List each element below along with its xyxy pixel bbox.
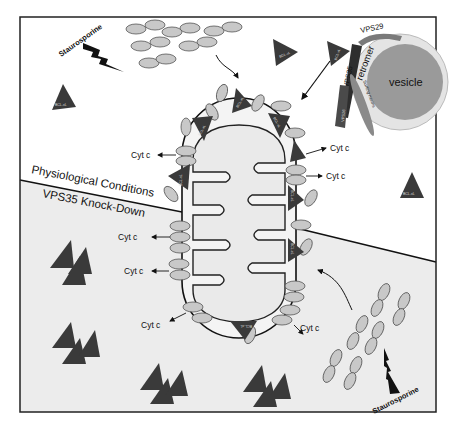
retromer-to-mito-arrow	[302, 61, 330, 99]
cyt-c-label: Cyt c	[326, 171, 346, 181]
svg-text:BCL-xL: BCL-xL	[179, 174, 183, 186]
vps35-bclxl-diagram: Physiological Conditions VPS35 Knock-Dow…	[0, 0, 455, 442]
svg-text:BCL-xL: BCL-xL	[240, 324, 252, 328]
cyt-c-label: Cyt c	[131, 150, 151, 160]
svg-text:BCL-xL: BCL-xL	[290, 190, 294, 202]
retromer-vesicle-complex: vesicle VPS29 VPS35 retromer VPS26 Sorti…	[302, 21, 448, 137]
svg-text:BCL-xL: BCL-xL	[290, 243, 294, 255]
cyt-c-label: Cyt c	[141, 320, 161, 330]
cytosolic-bax-cluster	[126, 20, 242, 68]
lightning-bolt-icon	[83, 43, 124, 72]
cyt-c-label: Cyt c	[330, 143, 350, 153]
svg-text:BCL-xL: BCL-xL	[55, 103, 67, 107]
cyt-c-label: Cyt c	[118, 232, 138, 242]
vesicle-label: vesicle	[389, 76, 423, 88]
cyt-c-label: Cyt c	[300, 323, 320, 333]
vps29-label: VPS29	[360, 21, 385, 35]
staurosporine-top: Staurosporine	[57, 22, 124, 72]
translocation-arrow-top	[216, 55, 238, 78]
svg-text:BCL-xL: BCL-xL	[403, 192, 415, 196]
cyt-c-label: Cyt c	[124, 266, 144, 276]
inner-membrane-cristae	[193, 125, 285, 322]
